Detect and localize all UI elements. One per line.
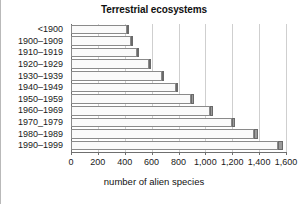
y-axis-label: <1900 [38,24,63,36]
y-axis-label: 1980–1989 [18,129,63,141]
x-tick-mark [179,152,180,155]
bar-row [71,105,286,117]
y-axis-label: 1950–1959 [18,94,63,106]
x-tick-mark [152,152,153,155]
x-tick-label: 1,400 [248,157,271,167]
y-axis-label: 1970_1979 [18,117,63,129]
bar-segment-increment [278,141,282,151]
bar-row [71,129,286,141]
bar-segment-main [71,36,131,46]
chart-title: Terrestrial ecosystems [1,4,306,15]
bar-segment-increment [162,71,164,81]
bar-segment-increment [127,25,129,35]
bar-row [71,59,286,71]
bar-segment-main [71,94,191,104]
x-tick-label: 1,000 [194,157,217,167]
bar-segment-main [71,141,278,151]
x-tick-label: 600 [144,157,159,167]
bar-segment-increment [210,106,213,116]
bar-segment-main [71,71,162,81]
y-axis-category-labels: <19001900–19091910–19191920–19291930–193… [1,24,67,152]
bar-row [71,94,286,106]
bar-row [71,24,286,36]
chart-figure: Terrestrial ecosystems <19001900–1909191… [0,0,306,204]
bar-segment-increment [149,59,151,69]
bar-segment-main [71,129,254,139]
bar-segment-increment [131,36,133,46]
bar-segment-increment [232,118,235,128]
bar-segment-increment [137,48,139,58]
y-axis-label: 1930–1939 [18,71,63,83]
bar-segment-main [71,118,232,128]
bar-row [71,71,286,83]
x-tick-label: 400 [117,157,132,167]
bar-segment-main [71,106,210,116]
bar-row [71,140,286,152]
bar-segment-main [71,59,149,69]
x-tick-mark [286,152,287,155]
bar-segment-increment [191,94,193,104]
x-tick-label: 1,200 [221,157,244,167]
x-tick-mark [98,152,99,155]
bar-series [71,24,286,152]
bar-row [71,82,286,94]
x-tick-label: 1,600 [275,157,298,167]
x-tick-label: 0 [68,157,73,167]
y-axis-label: 1940–1949 [18,82,63,94]
x-tick-label: 800 [171,157,186,167]
y-axis-label: 1990–1999 [18,140,63,152]
x-tick-mark [259,152,260,155]
plot-area [71,24,286,152]
x-tick-mark [125,152,126,155]
bar-row [71,47,286,59]
y-axis-label: 1920–1929 [18,59,63,71]
gridline-1600 [286,24,287,152]
bar-row [71,117,286,129]
y-axis-label: 1900–1909 [18,36,63,48]
bar-segment-increment [176,83,178,93]
y-axis-label: 1910–1919 [18,47,63,59]
bar-segment-increment [254,129,258,139]
x-tick-mark [232,152,233,155]
bar-segment-main [71,83,176,93]
y-axis-label: 1960–1969 [18,105,63,117]
bar-segment-main [71,48,137,58]
bar-row [71,36,286,48]
x-axis-title: number of alien species [1,176,306,187]
x-tick-mark [205,152,206,155]
bar-segment-main [71,25,127,35]
x-tick-mark [71,152,72,155]
x-tick-label: 200 [90,157,105,167]
